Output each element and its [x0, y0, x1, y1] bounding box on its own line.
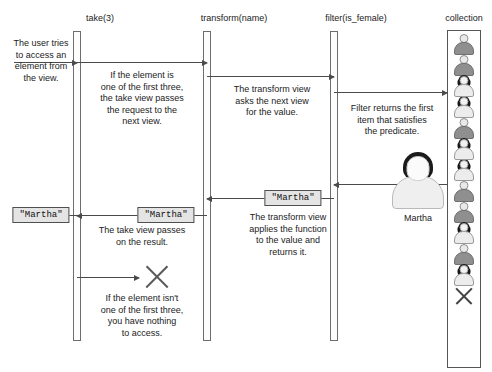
- person-icon-male: [452, 243, 476, 265]
- collection-box: [447, 30, 481, 368]
- lifeline-label-collection: collection: [445, 13, 483, 23]
- arrow-transform-to-filter: [207, 76, 334, 77]
- person-icon-male: [452, 117, 476, 139]
- lifeline-label-take: take(3): [86, 13, 114, 23]
- failure-x-icon: [144, 264, 170, 290]
- lifeline-label-transform: transform(name): [201, 13, 268, 23]
- martha-person-icon: [391, 152, 445, 206]
- person-icon-male: [452, 54, 476, 76]
- arrow-take-failure: [77, 277, 139, 278]
- value-box-take: "Martha": [137, 207, 194, 223]
- note-filter-to-collection: Filter returns the firstitem that satisf…: [331, 103, 453, 138]
- value-box-user: "Martha": [12, 207, 69, 223]
- person-icon-female: [452, 159, 476, 181]
- arrow-filter-to-collection: [334, 92, 447, 93]
- person-icon-male: [452, 33, 476, 55]
- martha-label: Martha: [404, 213, 432, 223]
- sequence-diagram: take(3) transform(name) filter(is_female…: [0, 0, 492, 372]
- note-take-return: The take view passeson the result.: [80, 225, 204, 248]
- note-take-to-transform: If the element isone of the first three,…: [79, 70, 205, 128]
- person-icon-female: [452, 138, 476, 160]
- note-transform-return: The transform viewapplies the functionto…: [232, 212, 344, 258]
- person-icon-female: [452, 264, 476, 286]
- arrow-take-to-transform: [77, 62, 207, 63]
- note-user-request: The user triesto access anelement fromth…: [0, 38, 82, 84]
- person-icon-female: [452, 96, 476, 118]
- person-icon-male: [452, 201, 476, 223]
- note-transform-to-filter: The transform viewasks the next viewfor …: [217, 84, 327, 119]
- lifeline-label-filter: filter(is_female): [325, 13, 387, 23]
- person-icon-female: [452, 222, 476, 244]
- person-icon-male: [452, 180, 476, 202]
- value-box-filter: "Martha": [264, 190, 321, 206]
- person-icon-female: [452, 75, 476, 97]
- collection-end-x-icon: [454, 286, 474, 306]
- note-take-failure: If the element isn'tone of the first thr…: [79, 293, 205, 339]
